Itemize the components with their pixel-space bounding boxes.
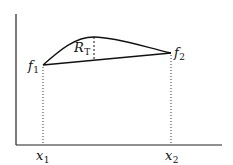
curve <box>43 37 171 65</box>
diagram-canvas <box>0 0 233 165</box>
label-f1: f1 <box>28 59 39 75</box>
label-f2: f2 <box>174 46 185 62</box>
label-rt: RT <box>74 41 90 57</box>
chord <box>43 53 171 65</box>
label-x2: x2 <box>165 149 179 165</box>
label-x1: x1 <box>36 149 50 165</box>
